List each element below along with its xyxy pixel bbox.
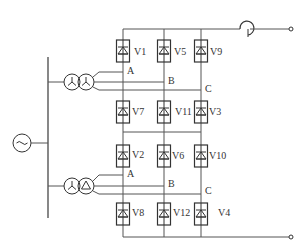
upper-phase-a-wire [93,72,123,77]
label-v7: V7 [132,106,144,117]
thyristor-v12-icon [158,203,171,225]
thyristor-v10-icon [195,145,208,167]
transformer-wye-delta-icon [64,178,94,194]
label-upper-phase-c: C [205,83,212,94]
label-v10: V10 [209,150,226,161]
label-lower-phase-a: A [127,168,135,179]
lower-phase-a-wire [93,175,123,181]
thyristor-v2-icon [117,145,130,167]
positive-terminal-icon[interactable] [289,27,293,31]
thyristor-v1-icon [117,40,130,62]
negative-terminal-icon[interactable] [289,235,293,239]
label-lower-phase-b: B [168,178,175,189]
label-v5: V5 [174,46,186,57]
label-v4: V4 [218,207,230,218]
thyristor-v9-icon [195,40,208,62]
label-v12: V12 [173,207,190,218]
label-v1: V1 [134,46,146,57]
label-lower-phase-c: C [205,185,212,196]
label-v11: V11 [175,106,192,117]
thyristor-v11-icon [158,101,171,123]
label-upper-phase-b: B [168,75,175,86]
label-v2: V2 [132,149,144,160]
upper-phase-c-wire [93,87,201,90]
label-v6: V6 [172,150,184,161]
thyristor-v3-icon [195,101,208,123]
thyristor-v8-icon [117,203,130,225]
thyristor-v5-icon [158,40,171,62]
thyristor-v7-icon [117,101,130,123]
label-v3: V3 [209,106,221,117]
lower-phase-c-wire [93,191,201,194]
circuit-diagram: V1 V5 V9 V7 V11 V3 V2 V6 V10 V8 V12 V4 A… [0,0,302,250]
thyristor-v4-icon [195,203,208,225]
thyristor-v6-icon [158,145,171,167]
transformer-wye-wye-icon [64,74,94,90]
label-upper-phase-a: A [127,65,135,76]
label-v8: V8 [132,207,144,218]
label-v9: V9 [210,46,222,57]
ac-source-icon [13,134,31,152]
